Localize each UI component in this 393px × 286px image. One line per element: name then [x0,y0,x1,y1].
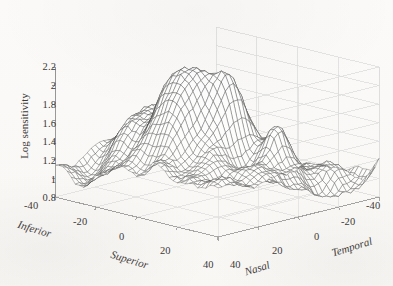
x-tick-label: -20 [73,216,87,227]
x-tick-label: -40 [24,200,38,211]
z-tick-label: 2 [30,80,56,91]
z-tick-label: 1.2 [30,155,56,166]
x-tick-label: 0 [119,231,124,242]
y-tick-label: 0 [314,231,319,242]
surface-mesh [55,67,379,197]
y-tick-label: 40 [230,259,241,270]
z-tick-label: 2.2 [30,61,56,72]
z-tick-label: 1.8 [30,99,56,110]
z-tick-label: 1 [30,174,56,185]
y-tick-label: -20 [341,216,355,227]
x-tick-label: 20 [160,245,171,256]
x-tick-label: 40 [203,259,214,270]
z-tick-label: 1.4 [30,136,56,147]
z-axis-label: Log sensitivity [18,86,30,166]
surface-plot-svg [0,0,393,286]
figure-canvas: 2.2 2 1.8 1.6 1.4 1.2 1 0.8 Log sensitiv… [0,0,393,286]
y-tick-label: -40 [366,200,380,211]
y-tick-label: 20 [272,245,283,256]
z-tick-label: 1.6 [30,118,56,129]
